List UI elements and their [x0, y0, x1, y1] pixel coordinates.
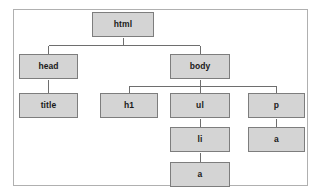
node-a-under-p[interactable]: a — [248, 127, 305, 152]
node-title[interactable]: title — [19, 93, 78, 118]
node-label: li — [198, 135, 203, 144]
diagram-root: html head body title h1 ul p li a a — [0, 0, 315, 196]
node-label: a — [274, 135, 279, 144]
node-p[interactable]: p — [248, 93, 305, 118]
node-label: head — [38, 62, 58, 71]
node-label: html — [114, 20, 132, 29]
node-html[interactable]: html — [92, 12, 154, 37]
node-ul[interactable]: ul — [170, 93, 230, 118]
node-li[interactable]: li — [170, 127, 230, 152]
node-label: p — [274, 101, 279, 110]
node-label: a — [198, 170, 203, 179]
node-a-under-li[interactable]: a — [170, 162, 230, 187]
edge-body-children — [129, 80, 277, 94]
node-label: ul — [196, 101, 204, 110]
node-head[interactable]: head — [19, 54, 78, 79]
node-label: h1 — [124, 101, 134, 110]
node-body[interactable]: body — [170, 54, 230, 79]
node-label: title — [41, 101, 57, 110]
node-h1[interactable]: h1 — [100, 93, 158, 118]
edge-html-children — [49, 38, 201, 55]
node-label: body — [190, 62, 211, 71]
